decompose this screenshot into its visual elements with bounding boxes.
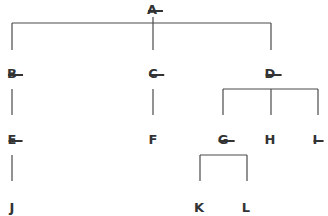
- node-e: E: [8, 133, 17, 147]
- node-i: I: [313, 133, 318, 147]
- node-g: G: [218, 133, 229, 147]
- node-f: F: [149, 133, 158, 147]
- node-a: A: [147, 3, 157, 17]
- node-b: B: [7, 67, 17, 81]
- tree-diagram: A B C D E F G H I J K L: [0, 0, 328, 216]
- node-h: H: [265, 133, 276, 147]
- node-d: D: [265, 67, 276, 81]
- node-l: L: [242, 201, 250, 215]
- tree-edges: [0, 0, 328, 216]
- node-k: K: [194, 201, 204, 215]
- node-j: J: [10, 201, 15, 215]
- node-c: C: [148, 67, 158, 81]
